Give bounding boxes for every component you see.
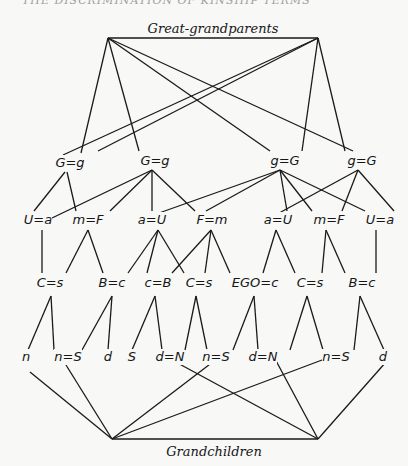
descent-edge — [276, 230, 295, 273]
kin-node-ego_generation: B=c — [349, 275, 376, 290]
descent-edge — [147, 230, 158, 273]
kinship-diagram: THE DISCRIMINATION OF KINSHIP TERMS G=gG… — [0, 0, 408, 466]
descent-edge — [82, 296, 112, 350]
descent-edge — [52, 170, 152, 218]
kin-node-ego_generation: C=s — [186, 275, 213, 290]
kin-node-children: S — [128, 349, 136, 364]
kin-node-children: d=N — [156, 349, 185, 364]
great-grandparents-label: Great-grandparents — [148, 21, 279, 36]
descent-edge — [342, 170, 358, 211]
descent-edge — [88, 230, 103, 273]
kin-node-ego_generation: B=c — [99, 275, 126, 290]
descent-edge — [66, 230, 88, 273]
kin-node-ego_generation: c=B — [145, 275, 172, 290]
great-grandparent-edge — [108, 38, 139, 151]
descent-edge — [158, 230, 184, 273]
grandchildren-label: Grandchildren — [166, 444, 262, 459]
descent-edge — [128, 230, 158, 273]
kin-node-parents: m=F — [72, 212, 104, 227]
descent-edge — [152, 170, 195, 211]
kin-node-children: n — [22, 349, 30, 364]
descent-edge — [360, 296, 384, 350]
descent-edge — [155, 296, 162, 350]
descent-edge — [34, 172, 65, 211]
great-grandparent-edge — [63, 38, 318, 155]
descent-edge — [280, 170, 312, 211]
descent-edge — [290, 296, 307, 350]
kin-node-ego_generation: C=s — [297, 275, 324, 290]
kin-node-ego_generation: C=s — [37, 275, 64, 290]
kin-node-parents: F=m — [196, 212, 227, 227]
edges-layer — [28, 38, 394, 439]
kin-node-children: n=S — [54, 349, 81, 364]
kin-node-grandparents: G=g — [140, 153, 169, 168]
descent-edge — [326, 230, 345, 273]
descent-edge — [354, 296, 360, 350]
kin-node-grandparents: g=G — [270, 153, 299, 168]
grandchild-edge — [112, 358, 218, 439]
great-grandparent-edge — [98, 38, 318, 151]
grandchild-edge — [66, 365, 112, 439]
kin-node-parents: U=a — [366, 212, 394, 227]
kin-node-parents: a=U — [138, 212, 167, 227]
kin-node-parents: m=F — [313, 212, 345, 227]
descent-edge — [307, 296, 323, 350]
great-grandparent-edge — [318, 38, 345, 151]
kin-node-grandparents: G=g — [55, 155, 84, 170]
descent-edge — [67, 172, 76, 211]
descent-edge — [172, 230, 211, 273]
descent-edge — [358, 170, 394, 211]
descent-edge — [108, 296, 112, 350]
grandchild-edge — [30, 372, 112, 439]
diagram-canvas: G=gG=gg=Gg=GU=am=Fa=UF=ma=Um=FU=aC=sB=cc… — [0, 0, 408, 466]
descent-edge — [132, 296, 155, 350]
kin-node-parents: U=a — [24, 212, 52, 227]
grandchild-edge — [112, 357, 330, 439]
descent-edge — [263, 230, 276, 273]
descent-edge — [145, 170, 280, 218]
descent-edge — [280, 170, 287, 211]
kin-node-children: d — [379, 349, 388, 364]
descent-edge — [280, 170, 365, 211]
kin-node-children: d=N — [249, 349, 278, 364]
descent-edge — [51, 296, 54, 350]
grandchild-edge — [318, 362, 386, 439]
descent-edge — [211, 230, 230, 273]
descent-edge — [270, 170, 358, 218]
descent-edge — [254, 296, 258, 350]
kin-node-children: n=S — [322, 349, 349, 364]
kin-node-children: n=S — [202, 349, 229, 364]
kin-node-ego_generation: EGO=c — [232, 275, 279, 290]
descent-edge — [28, 296, 51, 350]
descent-edge — [206, 170, 280, 211]
descent-edge — [322, 230, 326, 273]
descent-edge — [196, 296, 207, 350]
descent-edge — [185, 296, 196, 350]
kin-node-grandparents: g=G — [347, 153, 376, 168]
kin-node-children: d — [104, 349, 113, 364]
kin-node-parents: a=U — [264, 212, 293, 227]
descent-edge — [233, 296, 254, 350]
descent-edge — [110, 170, 152, 211]
